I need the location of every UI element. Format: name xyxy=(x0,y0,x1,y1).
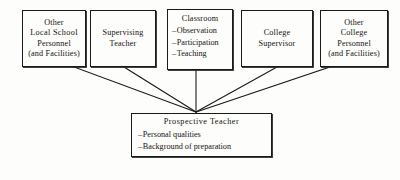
dash-icon: – xyxy=(138,129,142,140)
node-title-line: Local School xyxy=(30,28,78,38)
dash-icon: – xyxy=(172,25,176,36)
node-other-local-school-personnel: Other Local School Personnel (and Facili… xyxy=(22,10,86,67)
node-title-line: College xyxy=(341,28,368,38)
bullet-item: – Personal qualities xyxy=(138,129,201,141)
dash-icon: – xyxy=(172,37,176,48)
node-title-line: Teacher xyxy=(110,39,137,49)
node-title-line: Supervising xyxy=(103,28,144,38)
bullet-item: – Teaching xyxy=(172,48,207,60)
node-title-line: Prospective Teacher xyxy=(164,117,239,127)
bullet-item: – Background of preparation xyxy=(138,141,231,153)
bullet-label: Background of preparation xyxy=(143,142,231,153)
bullet-item: – Participation xyxy=(172,37,219,49)
connector-line-other-college-personnel xyxy=(196,67,330,112)
node-title-line: Supervisor xyxy=(259,39,296,49)
node-prospective-teacher: Prospective Teacher – Personal qualities… xyxy=(131,113,272,157)
node-title-line: (and Facilities) xyxy=(328,49,380,59)
bullet-label: Participation xyxy=(177,38,219,49)
connector-line-other-local-school-personnel xyxy=(74,67,196,112)
node-bullet-list: – Observation – Participation – Teaching xyxy=(168,25,232,60)
node-title-line: Personnel xyxy=(337,39,371,49)
bullet-label: Observation xyxy=(177,26,217,37)
node-title-line: (and Facilities) xyxy=(28,49,80,59)
node-title-line: College xyxy=(264,28,291,38)
dash-icon: – xyxy=(172,48,176,59)
bullet-item: – Observation xyxy=(172,25,217,37)
diagram-root: Other Local School Personnel (and Facili… xyxy=(0,0,400,180)
connector-line-supervising-teacher xyxy=(124,67,196,112)
node-bullet-list: – Personal qualities – Background of pre… xyxy=(132,129,271,152)
node-classroom: Classroom – Observation – Participation … xyxy=(167,9,233,70)
node-other-college-personnel: Other College Personnel (and Facilities) xyxy=(320,10,388,67)
node-title-line: Other xyxy=(344,18,363,28)
bullet-label: Teaching xyxy=(177,49,207,60)
dash-icon: – xyxy=(138,141,142,152)
node-college-supervisor: College Supervisor xyxy=(241,10,313,67)
connector-line-college-supervisor xyxy=(196,67,277,112)
node-title-line: Classroom xyxy=(182,14,218,24)
node-title-line: Other xyxy=(44,18,63,28)
bullet-label: Personal qualities xyxy=(143,130,201,141)
node-title-line: Personnel xyxy=(37,39,71,49)
node-supervising-teacher: Supervising Teacher xyxy=(90,10,156,67)
